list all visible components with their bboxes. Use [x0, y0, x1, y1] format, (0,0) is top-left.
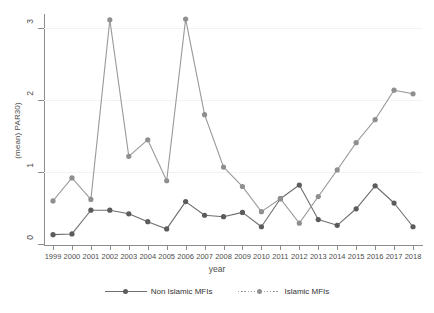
data-point[interactable] [259, 209, 264, 214]
data-point[interactable] [126, 154, 131, 159]
x-tick-mark [394, 245, 395, 250]
chart-legend: Non Islamic MFIs Islamic MFIs [0, 286, 434, 296]
x-tick-mark [205, 245, 206, 250]
y-axis-title: (mean) PAR30) [13, 102, 22, 158]
x-tick-mark [167, 245, 168, 250]
legend-item-islamic[interactable]: Islamic MFIs [238, 286, 329, 296]
data-point[interactable] [145, 137, 150, 142]
data-point[interactable] [373, 183, 378, 188]
legend-label-islamic: Islamic MFIs [284, 287, 329, 296]
data-point[interactable] [164, 226, 169, 231]
chart-root: (mean) PAR30) 0123 199920002001200220032… [0, 0, 434, 313]
x-tick-label: 2018 [398, 252, 428, 261]
data-point[interactable] [145, 219, 150, 224]
legend-key-non-islamic [105, 286, 147, 296]
data-point[interactable] [164, 178, 169, 183]
legend-item-non-islamic[interactable]: Non Islamic MFIs [105, 286, 213, 296]
x-axis-title: year [0, 264, 434, 274]
data-point[interactable] [240, 184, 245, 189]
x-tick-mark [148, 245, 149, 250]
series-line-islamic [53, 19, 413, 223]
data-point[interactable] [316, 217, 321, 222]
x-tick-mark [299, 245, 300, 250]
data-point[interactable] [391, 200, 396, 205]
data-point[interactable] [69, 175, 74, 180]
legend-marker-non-islamic [123, 289, 128, 294]
legend-label-non-islamic: Non Islamic MFIs [151, 287, 213, 296]
y-tick-mark [38, 244, 44, 245]
data-point[interactable] [183, 16, 188, 21]
data-point[interactable] [240, 210, 245, 215]
series-line-non-islamic [53, 185, 413, 235]
data-point[interactable] [335, 223, 340, 228]
data-point[interactable] [221, 214, 226, 219]
data-point[interactable] [88, 208, 93, 213]
data-point[interactable] [50, 232, 55, 237]
data-point[interactable] [410, 224, 415, 229]
x-tick-mark [337, 245, 338, 250]
x-tick-mark [375, 245, 376, 250]
x-tick-mark [72, 245, 73, 250]
y-tick-label: 1 [25, 163, 35, 179]
x-axis-line [44, 245, 423, 246]
legend-key-islamic [238, 286, 280, 296]
data-point[interactable] [69, 231, 74, 236]
data-point[interactable] [278, 196, 283, 201]
y-tick-label: 0 [25, 235, 35, 251]
data-point[interactable] [410, 91, 415, 96]
y-tick-label: 3 [25, 19, 35, 35]
series-lines [44, 14, 422, 244]
plot-area [44, 14, 422, 244]
y-tick-label: 2 [25, 91, 35, 107]
data-point[interactable] [202, 213, 207, 218]
data-point[interactable] [373, 117, 378, 122]
data-point[interactable] [297, 182, 302, 187]
data-point[interactable] [183, 199, 188, 204]
x-tick-mark [129, 245, 130, 250]
data-point[interactable] [354, 206, 359, 211]
data-point[interactable] [88, 197, 93, 202]
data-point[interactable] [391, 88, 396, 93]
data-point[interactable] [50, 198, 55, 203]
x-tick-mark [413, 245, 414, 250]
x-tick-mark [242, 245, 243, 250]
x-tick-mark [186, 245, 187, 250]
data-point[interactable] [259, 224, 264, 229]
x-tick-mark [318, 245, 319, 250]
x-tick-mark [53, 245, 54, 250]
x-tick-mark [91, 245, 92, 250]
data-point[interactable] [354, 140, 359, 145]
data-point[interactable] [221, 164, 226, 169]
data-point[interactable] [316, 194, 321, 199]
x-tick-mark [224, 245, 225, 250]
legend-marker-islamic [257, 289, 262, 294]
data-point[interactable] [297, 221, 302, 226]
x-tick-mark [261, 245, 262, 250]
x-tick-mark [356, 245, 357, 250]
data-point[interactable] [107, 208, 112, 213]
data-point[interactable] [335, 167, 340, 172]
data-point[interactable] [107, 17, 112, 22]
x-tick-mark [110, 245, 111, 250]
data-point[interactable] [126, 211, 131, 216]
data-point[interactable] [202, 112, 207, 117]
y-axis-title-wrap: (mean) PAR30) [8, 0, 26, 260]
x-tick-mark [280, 245, 281, 250]
